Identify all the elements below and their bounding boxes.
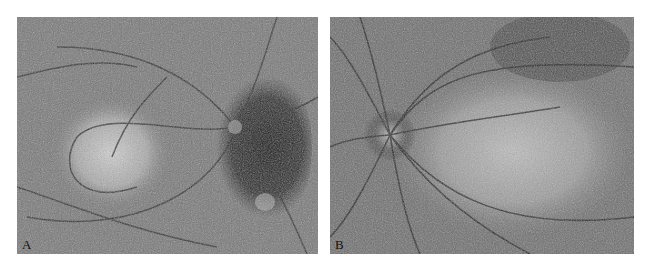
fundus-image-a-graphic: [17, 17, 318, 254]
fundus-image-b-graphic: [330, 17, 634, 254]
panel-label-a: A: [22, 238, 31, 251]
fundus-image-b: B: [330, 17, 634, 254]
fundus-image-a: A: [17, 17, 318, 254]
panel-label-b: B: [335, 238, 344, 251]
